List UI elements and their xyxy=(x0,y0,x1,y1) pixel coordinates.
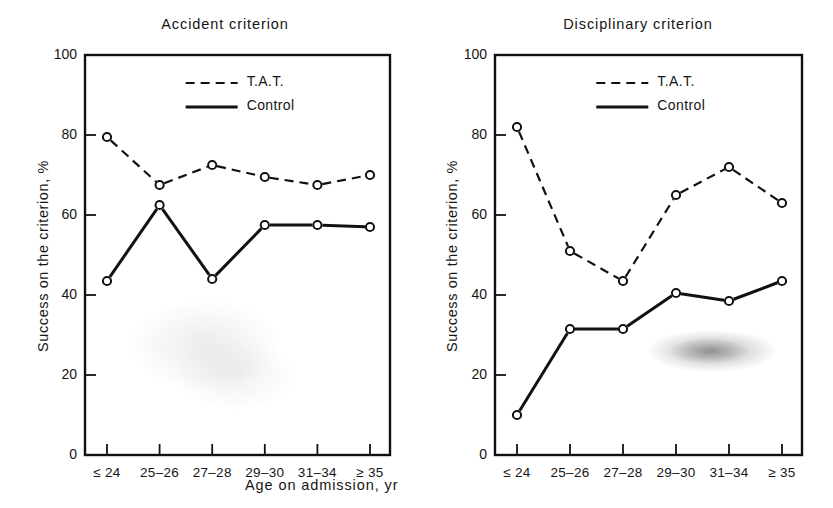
data-point-marker xyxy=(366,223,374,231)
y-tick-label: 60 xyxy=(439,206,487,222)
data-point-marker xyxy=(619,325,627,333)
data-point-marker xyxy=(208,161,216,169)
legend-label-tat: T.A.T. xyxy=(247,73,284,89)
y-tick-label: 20 xyxy=(439,366,487,382)
x-tick-label: ≥ 35 xyxy=(748,465,816,480)
series-line-tat xyxy=(626,199,674,276)
data-point-marker xyxy=(156,201,164,209)
series-line-control xyxy=(681,294,724,301)
data-point-marker xyxy=(778,277,786,285)
legend-label-control: Control xyxy=(657,97,705,113)
plot-area-accident xyxy=(0,0,416,508)
series-line-tat xyxy=(111,140,156,181)
series-line-tat xyxy=(574,253,618,278)
y-tick-label: 0 xyxy=(29,446,77,462)
data-point-marker xyxy=(672,289,680,297)
y-tick-label: 20 xyxy=(29,366,77,382)
data-point-marker xyxy=(366,171,374,179)
y-tick-label: 40 xyxy=(439,286,487,302)
series-line-control xyxy=(110,209,157,277)
series-line-tat xyxy=(164,167,207,183)
data-point-marker xyxy=(778,199,786,207)
data-point-marker xyxy=(156,181,164,189)
plot-area-disciplinary xyxy=(417,0,833,508)
y-tick-label: 100 xyxy=(439,46,487,62)
series-line-tat xyxy=(733,170,778,200)
data-point-marker xyxy=(513,411,521,419)
data-point-marker xyxy=(208,275,216,283)
chart-panel-disciplinary: Disciplinary criterion Success on the cr… xyxy=(417,0,833,508)
series-line-tat xyxy=(217,166,260,176)
series-line-control xyxy=(627,296,672,326)
series-line-control xyxy=(520,333,568,410)
data-point-marker xyxy=(566,325,574,333)
axes-frame xyxy=(495,55,802,455)
series-line-tat xyxy=(680,169,724,192)
data-point-marker xyxy=(619,277,627,285)
legend-label-control: Control xyxy=(247,97,295,113)
y-tick-label: 80 xyxy=(439,126,487,142)
data-point-marker xyxy=(725,297,733,305)
data-point-marker xyxy=(566,247,574,255)
data-point-marker xyxy=(103,133,111,141)
y-tick-label: 80 xyxy=(29,126,77,142)
figure-root: Accident criterion Success on the criter… xyxy=(0,0,833,508)
y-tick-label: 100 xyxy=(29,46,77,62)
data-point-marker xyxy=(261,221,269,229)
series-line-tat xyxy=(519,132,568,247)
series-line-control xyxy=(162,209,209,275)
data-point-marker xyxy=(313,181,321,189)
data-point-marker xyxy=(725,163,733,171)
y-tick-label: 0 xyxy=(439,446,487,462)
series-line-control xyxy=(322,225,365,227)
data-point-marker xyxy=(513,123,521,131)
data-point-marker xyxy=(313,221,321,229)
series-line-control xyxy=(216,229,262,276)
data-point-marker xyxy=(103,277,111,285)
chart-panel-accident: Accident criterion Success on the criter… xyxy=(0,0,416,508)
series-line-tat xyxy=(270,178,313,184)
x-axis-label: Age on admission, yr xyxy=(245,477,398,493)
legend-label-tat: T.A.T. xyxy=(657,73,694,89)
data-point-marker xyxy=(672,191,680,199)
data-point-marker xyxy=(261,173,269,181)
y-tick-label: 40 xyxy=(29,286,77,302)
y-tick-label: 60 xyxy=(29,206,77,222)
series-line-control xyxy=(734,283,778,299)
series-line-tat xyxy=(322,176,365,184)
